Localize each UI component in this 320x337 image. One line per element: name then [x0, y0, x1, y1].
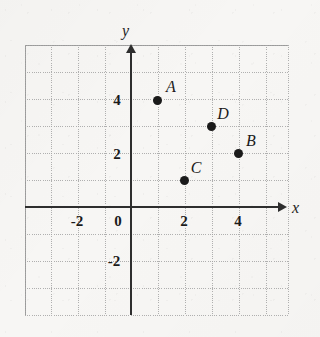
- gridline-horizontal: [25, 72, 288, 73]
- gridline-horizontal: [25, 261, 288, 262]
- data-point-b[interactable]: [234, 149, 243, 158]
- y-axis-arrow-icon: [126, 44, 136, 53]
- gridline-horizontal: [25, 288, 288, 289]
- gridline-horizontal: [25, 234, 288, 235]
- gridline-horizontal: [25, 153, 288, 154]
- x-tick-label: 4: [234, 214, 242, 229]
- x-tick-label: -2: [71, 214, 84, 229]
- data-point-a[interactable]: [153, 96, 162, 105]
- gridline-vertical: [288, 45, 289, 315]
- gridline-horizontal: [25, 180, 288, 181]
- data-point-label-c: C: [191, 160, 202, 176]
- gridline-horizontal: [25, 315, 288, 316]
- x-tick-label-origin: 0: [114, 214, 122, 229]
- data-point-d[interactable]: [207, 122, 216, 131]
- y-axis: [130, 52, 132, 315]
- x-axis-label: x: [292, 200, 299, 216]
- y-axis-label: y: [122, 23, 129, 39]
- scatter-plot: x y -2 0 2 4 4 2 -2 A B C D: [0, 0, 320, 337]
- data-point-label-b: B: [246, 133, 256, 149]
- x-tick-label: 2: [180, 214, 188, 229]
- data-point-c[interactable]: [180, 176, 189, 185]
- gridline-horizontal: [25, 126, 288, 127]
- x-axis-arrow-icon: [278, 202, 287, 212]
- y-tick-label: 4: [113, 93, 121, 108]
- gridline-horizontal: [25, 45, 288, 46]
- y-tick-label: -2: [108, 254, 121, 269]
- x-axis: [25, 206, 279, 208]
- coordinate-plane-figure: x y -2 0 2 4 4 2 -2 A B C D: [0, 0, 320, 337]
- y-tick-label: 2: [113, 147, 121, 162]
- data-point-label-a: A: [166, 79, 176, 95]
- data-point-label-d: D: [217, 106, 229, 122]
